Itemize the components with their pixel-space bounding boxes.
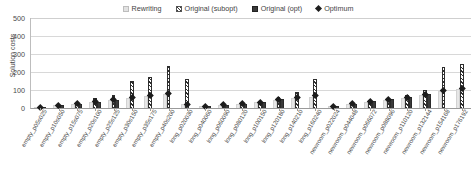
- y-tick-0: 0: [21, 104, 25, 113]
- y-axis-tick-labels: 0100200300400500: [0, 18, 28, 108]
- optimum-marker: [440, 87, 446, 93]
- bar-group: [364, 18, 375, 108]
- legend-label-rewriting: Rewriting: [132, 5, 162, 12]
- bar-group: [218, 18, 229, 108]
- bar-group: [199, 18, 210, 108]
- y-tick-400: 400: [13, 32, 25, 41]
- bar-group: [108, 18, 119, 108]
- bar-group: [144, 18, 155, 108]
- bar-group: [456, 18, 467, 108]
- bar-group: [383, 18, 394, 108]
- bar-group: [346, 18, 357, 108]
- legend-item-optimum: Optimum: [316, 5, 353, 12]
- chart-legend: Rewriting Original (subopt) Original (op…: [0, 2, 476, 16]
- chart-root: Rewriting Original (subopt) Original (op…: [0, 0, 476, 177]
- bar-group: [34, 18, 45, 108]
- legend-item-original-opt: Original (opt): [252, 5, 303, 12]
- legend-label-optimum: Optimum: [324, 5, 353, 12]
- y-tick-500: 500: [13, 14, 25, 23]
- bar-original-subopt: [167, 66, 171, 108]
- bar-group: [53, 18, 64, 108]
- bar-original-opt: [390, 99, 394, 108]
- y-tick-200: 200: [13, 68, 25, 77]
- bar-original-opt: [280, 99, 284, 108]
- bar-group: [89, 18, 100, 108]
- square-dark-icon: [252, 6, 258, 12]
- bar-group: [328, 18, 339, 108]
- legend-label-original-subopt: Original (subopt): [185, 5, 238, 12]
- legend-item-original-subopt: Original (subopt): [176, 5, 238, 12]
- bar-group: [126, 18, 137, 108]
- bar-original-opt: [427, 94, 431, 108]
- legend-item-rewriting: Rewriting: [123, 5, 162, 12]
- bar-group: [163, 18, 174, 108]
- bar-group: [401, 18, 412, 108]
- bar-group: [236, 18, 247, 108]
- bar-original-opt: [115, 100, 119, 108]
- bar-group: [309, 18, 320, 108]
- bar-group: [438, 18, 449, 108]
- legend-label-original-opt: Original (opt): [261, 5, 303, 12]
- y-tick-300: 300: [13, 50, 25, 59]
- optimum-marker: [165, 90, 171, 96]
- bar-group: [254, 18, 265, 108]
- bar-group: [71, 18, 82, 108]
- y-tick-100: 100: [13, 86, 25, 95]
- square-hatched-icon: [176, 6, 182, 12]
- x-axis-tick-labels: empty_p05s025empty_p10s050empty_p15s075e…: [30, 108, 470, 177]
- bar-group: [419, 18, 430, 108]
- bar-group: [273, 18, 284, 108]
- diamond-marker-icon: [315, 5, 322, 12]
- bar-group: [291, 18, 302, 108]
- plot-area: [30, 18, 471, 109]
- square-light-gray-icon: [123, 6, 129, 12]
- bar-group: [181, 18, 192, 108]
